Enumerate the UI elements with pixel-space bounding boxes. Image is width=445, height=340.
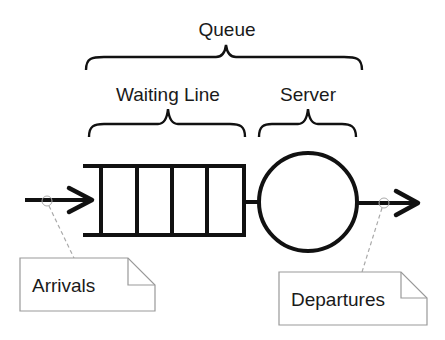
departure-arrow xyxy=(357,191,418,215)
server-label: Server xyxy=(280,84,337,105)
departures-connector xyxy=(362,198,389,272)
queue-brace xyxy=(86,45,362,70)
server-circle xyxy=(259,153,357,251)
queue-diagram: Queue Waiting Line Server xyxy=(0,0,445,340)
waiting-line-brace xyxy=(89,109,245,137)
queue-label: Queue xyxy=(198,19,255,40)
waiting-line-label: Waiting Line xyxy=(116,84,220,105)
arrivals-connector xyxy=(42,196,74,258)
waiting-line-buffer xyxy=(83,164,245,237)
departures-label: Departures xyxy=(291,289,385,310)
server-brace xyxy=(259,109,356,137)
arrivals-label: Arrivals xyxy=(32,275,95,296)
departures-note: Departures xyxy=(279,272,427,325)
arrivals-note: Arrivals xyxy=(20,258,155,311)
arrival-arrow xyxy=(25,188,92,212)
